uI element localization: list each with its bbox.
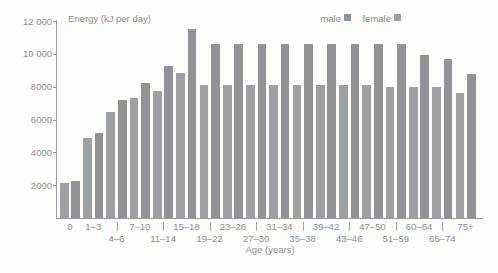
bar-male-7–10 bbox=[141, 83, 150, 218]
bar-female-15–18 bbox=[176, 73, 185, 218]
bar-male-15–18 bbox=[188, 29, 197, 218]
y-tick-label-4000: 4000 bbox=[1, 147, 52, 158]
x-label-separator bbox=[349, 222, 350, 231]
bar-female-27–30 bbox=[246, 85, 255, 218]
bar-female-43–46 bbox=[339, 85, 348, 218]
y-tick-label-10000: 10 000 bbox=[1, 48, 52, 59]
bar-female-4–6 bbox=[106, 112, 115, 218]
bar-female-1–3 bbox=[83, 138, 92, 218]
y-axis-tick bbox=[53, 87, 57, 88]
x-label-separator bbox=[210, 222, 211, 231]
x-tick-label-43–46: 43–46 bbox=[336, 233, 362, 244]
energy-bar-chart: Energy (kJ per day) male female 20004000… bbox=[0, 0, 498, 273]
bar-female-0 bbox=[60, 183, 69, 218]
y-tick-label-6000: 6000 bbox=[1, 114, 52, 125]
x-tick-label-60–64: 60–64 bbox=[406, 221, 432, 232]
bar-male-47–50 bbox=[374, 44, 383, 218]
bar-male-11–14 bbox=[164, 66, 173, 218]
bar-male-43–46 bbox=[351, 44, 360, 218]
x-label-separator bbox=[256, 222, 257, 231]
x-tick-label-27–30: 27–30 bbox=[243, 233, 269, 244]
y-tick-label-2000: 2000 bbox=[1, 180, 52, 191]
bar-male-0 bbox=[71, 181, 80, 218]
bar-female-65–74 bbox=[432, 87, 441, 218]
bar-male-27–30 bbox=[258, 44, 267, 218]
y-axis-tick bbox=[53, 21, 57, 22]
bar-male-19–22 bbox=[211, 44, 220, 218]
y-axis-tick bbox=[53, 152, 57, 153]
bar-female-47–50 bbox=[362, 85, 371, 218]
bar-female-7–10 bbox=[130, 98, 139, 218]
y-axis-tick bbox=[53, 54, 57, 55]
x-tick-label-39–42: 39–42 bbox=[313, 221, 339, 232]
x-label-separator bbox=[396, 222, 397, 231]
bar-female-60–64 bbox=[409, 87, 418, 218]
x-tick-label-19–22: 19–22 bbox=[196, 233, 222, 244]
x-tick-label-0: 0 bbox=[67, 221, 72, 232]
x-tick-label-23–26: 23–26 bbox=[220, 221, 246, 232]
x-tick-label-1–3: 1–3 bbox=[85, 221, 101, 232]
bar-female-39–42 bbox=[316, 85, 325, 218]
x-tick-label-35–38: 35–38 bbox=[289, 233, 315, 244]
x-label-separator bbox=[442, 222, 443, 231]
bar-female-35–38 bbox=[293, 85, 302, 218]
x-label-separator bbox=[303, 222, 304, 231]
x-tick-label-47–50: 47–50 bbox=[359, 221, 385, 232]
y-axis-tick bbox=[53, 120, 57, 121]
x-tick-label-51–59: 51–59 bbox=[383, 233, 409, 244]
bar-female-23–26 bbox=[223, 85, 232, 218]
x-tick-label-31–34: 31–34 bbox=[266, 221, 292, 232]
bar-male-39–42 bbox=[327, 44, 336, 218]
y-axis-tick bbox=[53, 185, 57, 186]
x-tick-label-75+: 75+ bbox=[458, 221, 474, 232]
x-tick-label-65–74: 65–74 bbox=[429, 233, 455, 244]
bar-male-35–38 bbox=[304, 44, 313, 218]
x-tick-label-7–10: 7–10 bbox=[129, 221, 150, 232]
x-tick-label-15–18: 15–18 bbox=[173, 221, 199, 232]
bar-male-4–6 bbox=[118, 100, 127, 218]
x-axis-line bbox=[56, 218, 483, 219]
legend-female-label: female bbox=[0, 13, 391, 24]
bar-male-60–64 bbox=[420, 55, 429, 218]
legend-female-swatch-icon bbox=[394, 14, 401, 21]
x-label-separator bbox=[117, 222, 118, 231]
x-label-separator bbox=[163, 222, 164, 231]
bar-female-31–34 bbox=[269, 85, 278, 218]
bar-male-23–26 bbox=[234, 44, 243, 218]
x-tick-label-11–14: 11–14 bbox=[150, 233, 176, 244]
bar-female-19–22 bbox=[200, 85, 209, 218]
bar-female-75+ bbox=[456, 93, 465, 218]
y-tick-label-8000: 8000 bbox=[1, 81, 52, 92]
bar-female-11–14 bbox=[153, 91, 162, 218]
bar-male-31–34 bbox=[281, 44, 290, 218]
bar-male-51–59 bbox=[397, 44, 406, 218]
x-axis-title: Age (years) bbox=[245, 244, 294, 255]
bar-male-75+ bbox=[467, 74, 476, 218]
bar-male-1–3 bbox=[95, 133, 104, 218]
x-tick-label-4–6: 4–6 bbox=[109, 233, 125, 244]
bar-male-65–74 bbox=[444, 59, 453, 218]
bar-female-51–59 bbox=[386, 87, 395, 218]
y-tick-label-12000: 12 000 bbox=[1, 16, 52, 27]
